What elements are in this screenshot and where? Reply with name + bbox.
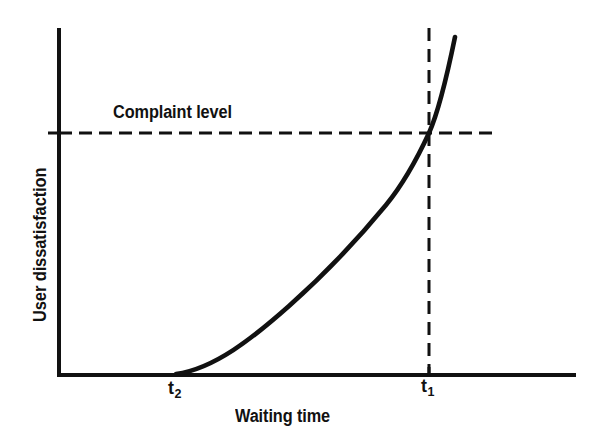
t1-subscript-glyph: 1 xyxy=(428,385,435,399)
t1-base-glyph: t xyxy=(421,376,427,396)
axis-group xyxy=(57,28,576,376)
dissatisfaction-curve xyxy=(176,37,455,374)
data-curve-group xyxy=(176,37,455,374)
reference-line-group xyxy=(59,28,496,374)
y-axis-title: User dissatisfaction xyxy=(30,168,51,322)
chart-canvas xyxy=(0,0,591,447)
complaint-level-annotation-label: Complaint level xyxy=(113,102,232,123)
x-axis-title: Waiting time xyxy=(235,406,330,427)
x-tick-label-t2: t2 xyxy=(168,378,181,399)
t2-subscript-glyph: 2 xyxy=(175,387,182,401)
chart-figure: Complaint level User dissatisfaction Wai… xyxy=(0,0,591,447)
t2-base-glyph: t xyxy=(168,378,174,398)
tick-mark-group xyxy=(48,133,429,377)
x-tick-label-t1: t1 xyxy=(421,376,434,397)
